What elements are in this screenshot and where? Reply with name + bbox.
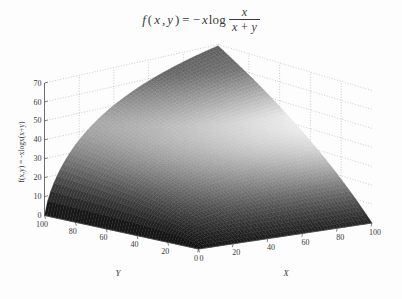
y-tick-label: 20 xyxy=(161,247,169,256)
z-tick-label: 30 xyxy=(34,154,42,163)
surface-mesh xyxy=(45,46,373,249)
z-tick-label: 60 xyxy=(34,98,42,107)
z-tick-label: 50 xyxy=(34,116,42,125)
y-tick-label: 100 xyxy=(36,220,48,229)
x-tick-label: 60 xyxy=(302,238,310,247)
y-axis-title: Y xyxy=(115,268,121,278)
z-tick-label: 0 xyxy=(38,211,42,220)
z-axis-title: f(x,y) = -xlogx(x+y) xyxy=(17,121,26,183)
y-tick-label: 80 xyxy=(69,227,77,236)
x-tick-label: 100 xyxy=(369,228,381,237)
z-tick-label: 70 xyxy=(34,79,42,88)
y-tick-label: 40 xyxy=(130,240,138,249)
z-tick-label: 40 xyxy=(34,135,42,144)
x-axis-title: X xyxy=(282,268,289,278)
y-tick-label: 0 xyxy=(194,254,198,263)
z-tick-label: 20 xyxy=(34,173,42,182)
z-tick-label: 10 xyxy=(34,192,42,201)
x-tick-label: 20 xyxy=(232,248,240,257)
surface-plot: 010203040506070020406080100020406080100Y… xyxy=(0,0,402,299)
x-tick-label: 80 xyxy=(336,233,344,242)
x-tick-label: 40 xyxy=(267,243,275,252)
y-tick-label: 60 xyxy=(100,233,108,242)
figure-canvas: f(x,y) = −xlog x x + y 01020304050607002… xyxy=(0,0,402,299)
x-tick-label: 0 xyxy=(200,254,204,263)
